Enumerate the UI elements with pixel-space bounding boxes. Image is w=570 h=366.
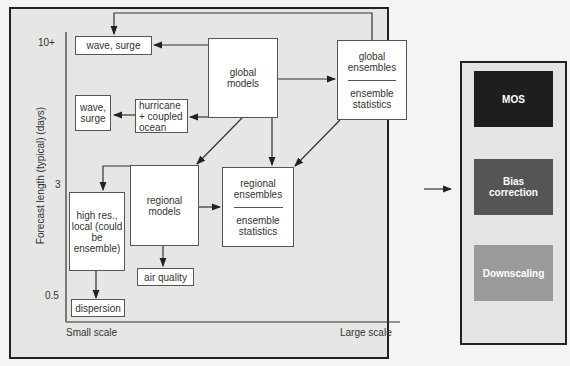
bias-correction-label: Bias correction xyxy=(489,176,539,198)
node-global-models-label: global models xyxy=(223,67,263,89)
high-res-label: high res., local (could be ensemble) xyxy=(70,210,124,254)
x-label-small-scale: Small scale xyxy=(66,327,117,338)
divider xyxy=(348,80,396,81)
mos-box: MOS xyxy=(474,71,553,127)
bias-correction-box: Bias correction xyxy=(474,159,553,215)
wave-surge-small-label: wave, surge xyxy=(77,102,109,124)
node-wave-surge-small: wave, surge xyxy=(75,95,111,131)
node-hurricane: hurricane + coupled ocean xyxy=(135,99,188,133)
hurricane-label: hurricane + coupled ocean xyxy=(139,100,189,133)
node-wave-surge-top: wave, surge xyxy=(75,36,152,55)
downscaling-box: Downscaling xyxy=(474,245,553,301)
y-tick-3: 3 xyxy=(55,179,61,190)
ensemble-statistics-label: ensemble statistics xyxy=(228,215,288,237)
global-ensembles-label: global ensembles xyxy=(341,51,403,73)
y-axis-label: Forecast length (typical) (days) xyxy=(35,86,46,266)
ensemble-statistics-label: ensemble statistics xyxy=(342,88,402,110)
node-global-models: global models xyxy=(208,38,278,118)
node-high-res: high res., local (could be ensemble) xyxy=(69,192,125,271)
node-dispersion: dispersion xyxy=(71,299,125,317)
regional-models-label: regional models xyxy=(142,195,187,217)
y-tick-10plus: 10+ xyxy=(38,37,55,48)
node-global-ensembles: global ensembles ensemble statistics xyxy=(337,40,407,120)
regional-ensembles-label: regional ensembles xyxy=(227,178,289,200)
node-air-quality: air quality xyxy=(137,268,194,286)
x-label-large-scale: Large scale xyxy=(340,327,392,338)
y-tick-0-5: 0.5 xyxy=(45,290,59,301)
node-regional-ensembles: regional ensembles ensemble statistics xyxy=(222,167,294,247)
divider xyxy=(234,207,283,208)
node-regional-models: regional models xyxy=(130,165,199,246)
